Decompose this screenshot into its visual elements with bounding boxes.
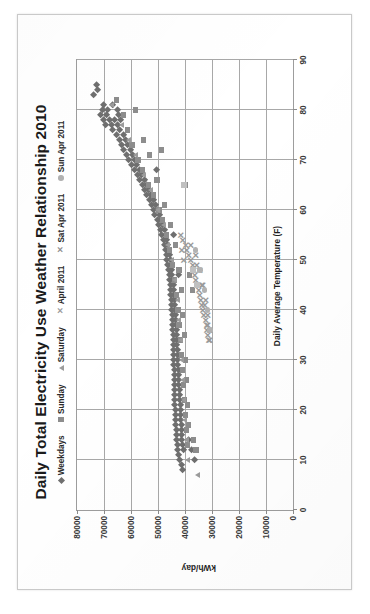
- x-tick: [293, 159, 297, 160]
- data-point: [133, 107, 138, 112]
- x-tick: [293, 109, 297, 110]
- data-point: [185, 457, 190, 463]
- y-axis-title: kWh/day: [181, 563, 215, 573]
- x-marker-icon: ✕: [58, 246, 64, 253]
- data-point: [158, 147, 163, 152]
- x-tick-label: 40: [299, 305, 308, 314]
- data-point: [169, 232, 175, 238]
- x-tick-label: 80: [299, 105, 308, 114]
- legend-item-label: Weekdays: [56, 435, 65, 475]
- data-point: [147, 187, 152, 193]
- data-point: [135, 157, 140, 162]
- y-gridline: [158, 60, 159, 510]
- data-point: [193, 282, 199, 288]
- legend-item-saturday: Saturday: [56, 327, 65, 371]
- data-point: [164, 232, 169, 237]
- data-point: [178, 287, 183, 292]
- legend-item-label: Sun Apr 2011: [56, 121, 65, 173]
- data-point: [160, 222, 165, 228]
- y-gridline: [131, 60, 132, 510]
- x-tick-label: 50: [299, 255, 308, 264]
- square-marker-icon: [58, 417, 64, 423]
- data-point: ✕: [178, 246, 186, 254]
- data-point: [126, 137, 131, 143]
- y-tick-label: 40000: [180, 516, 189, 560]
- data-point: [184, 427, 189, 432]
- data-point: [124, 127, 129, 132]
- data-point: [197, 267, 202, 272]
- x-tick-label: 30: [299, 355, 308, 364]
- chart-title: Daily Total Electricity Use Weather Rela…: [32, 19, 50, 585]
- data-point: [179, 367, 184, 372]
- y-tick-label: 0: [288, 516, 297, 560]
- legend-item-label: April 2011: [56, 266, 65, 305]
- data-point: [185, 422, 190, 427]
- data-point: [169, 262, 174, 267]
- data-point: [180, 382, 185, 387]
- legend-item-april-2011: ✕April 2011: [56, 266, 65, 315]
- data-point: [154, 207, 159, 213]
- data-point: [195, 472, 200, 478]
- y-tick: [131, 510, 132, 514]
- y-tick: [293, 510, 294, 514]
- data-point: [167, 222, 172, 227]
- x-tick: [293, 359, 297, 360]
- paper-sheet: Daily Total Electricity Use Weather Rela…: [17, 14, 352, 590]
- x-tick-label: 0: [299, 508, 308, 513]
- y-tick-label: 10000: [261, 516, 270, 560]
- data-point: [174, 297, 179, 303]
- x-tick-label: 60: [299, 205, 308, 214]
- data-point: [191, 437, 196, 442]
- data-point: [167, 247, 172, 252]
- x-marker-icon: ✕: [58, 307, 64, 314]
- data-point: [185, 442, 190, 447]
- data-point: [176, 322, 181, 327]
- y-tick-label: 30000: [207, 516, 216, 560]
- y-tick: [77, 510, 78, 514]
- x-tick-label: 90: [299, 55, 308, 64]
- x-tick: [293, 409, 297, 410]
- data-point: [140, 172, 145, 178]
- scanned-page: Daily Total Electricity Use Weather Rela…: [0, 0, 370, 614]
- data-point: [90, 92, 96, 98]
- data-point: [146, 152, 151, 157]
- data-point: ✕: [206, 336, 214, 344]
- y-gridline: [212, 60, 213, 510]
- y-tick: [104, 510, 105, 514]
- data-point: [191, 457, 197, 463]
- chart-legend: WeekdaysSundaySaturday✕April 2011✕Sat Ap…: [54, 19, 68, 585]
- data-point: [172, 277, 177, 283]
- data-point: [150, 192, 155, 197]
- data-point: [165, 242, 170, 248]
- x-tick: [293, 309, 297, 310]
- data-point: [177, 337, 182, 343]
- data-point: [183, 437, 188, 443]
- x-axis-title: Daily Average Temperature (F): [272, 61, 282, 511]
- legend-item-label: Saturday: [56, 327, 65, 362]
- data-point: [169, 257, 174, 263]
- x-tick-label: 70: [299, 155, 308, 164]
- y-tick: [239, 510, 240, 514]
- data-point: [119, 122, 124, 128]
- legend-item-sun-apr-2011: Sun Apr 2011: [56, 121, 65, 181]
- data-point: ✕: [180, 256, 188, 264]
- scatter-chart: Daily Total Electricity Use Weather Rela…: [30, 19, 340, 585]
- data-point: [207, 327, 212, 332]
- data-point: [190, 267, 196, 273]
- data-point: [120, 112, 125, 117]
- x-tick: [293, 259, 297, 260]
- y-gridline: [266, 60, 267, 510]
- y-tick-label: 50000: [153, 516, 162, 560]
- x-tick-label: 10: [299, 455, 308, 464]
- y-tick-label: 70000: [99, 516, 108, 560]
- data-point: [192, 247, 197, 252]
- data-point: [140, 137, 145, 142]
- data-point: [101, 122, 107, 128]
- triangle-marker-icon: [58, 365, 63, 371]
- data-point: [154, 177, 159, 182]
- x-tick: [293, 209, 297, 210]
- x-tick: [293, 459, 297, 460]
- y-gridline: [239, 60, 240, 510]
- data-point: [184, 402, 189, 407]
- data-point: [193, 447, 198, 452]
